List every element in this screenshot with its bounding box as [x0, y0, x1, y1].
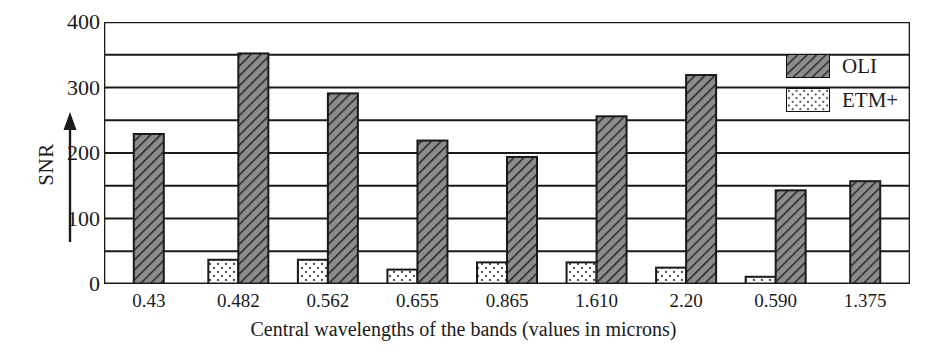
- x-axis-tick-labels: 0.430.4820.5620.6550.8651.6102.200.5901.…: [104, 288, 910, 318]
- x-tick-0.562: 0.562: [307, 288, 350, 314]
- x-tick-0.865: 0.865: [486, 288, 529, 314]
- x-tick-0.482: 0.482: [217, 288, 260, 314]
- x-tick-2.20: 2.20: [669, 288, 702, 314]
- legend-item-oli: OLI: [786, 52, 922, 80]
- legend-label-oli: OLI: [842, 52, 877, 80]
- legend-swatch-etm-icon: [786, 88, 830, 112]
- snr-bar-chart-figure: SNR 400 300 200 100 0: [0, 0, 927, 358]
- legend-swatch-oli-icon: [786, 54, 830, 78]
- y-tick-300: 300: [36, 77, 100, 99]
- x-tick-1.375: 1.375: [844, 288, 887, 314]
- y-axis-tick-labels: 400 300 200 100 0: [28, 22, 100, 284]
- x-axis-title: Central wavelengths of the bands (values…: [0, 318, 927, 341]
- y-tick-0: 0: [36, 273, 100, 295]
- y-tick-100: 100: [36, 208, 100, 230]
- x-tick-0.43: 0.43: [132, 288, 165, 314]
- x-tick-0.590: 0.590: [754, 288, 797, 314]
- y-tick-200: 200: [36, 142, 100, 164]
- legend-item-etm: ETM+: [786, 86, 922, 114]
- y-tick-400: 400: [36, 11, 100, 33]
- legend-label-etm: ETM+: [842, 86, 898, 114]
- chart-legend: OLI ETM+: [786, 52, 922, 122]
- x-tick-1.610: 1.610: [575, 288, 618, 314]
- x-tick-0.655: 0.655: [396, 288, 439, 314]
